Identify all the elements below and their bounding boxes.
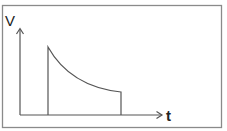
voltage-time-diagram: V t [0, 0, 227, 131]
x-axis-label: t [166, 107, 171, 124]
y-axis-label: V [5, 12, 15, 29]
frame-border [3, 6, 222, 128]
x-axis [20, 112, 162, 119]
pulse-waveform [48, 47, 121, 115]
y-axis [17, 29, 24, 116]
